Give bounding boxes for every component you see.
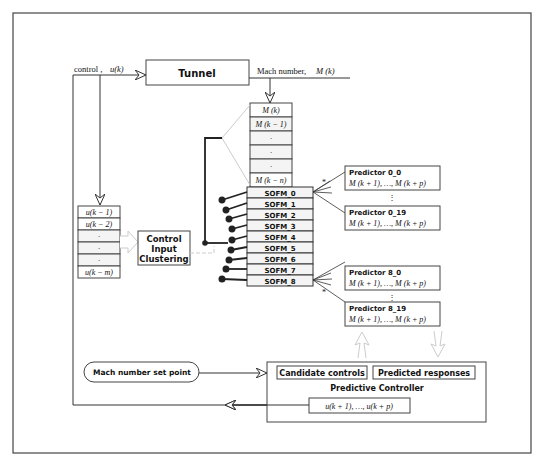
predictor-8-19: Predictor 8_19 M (k + 1), …, M (k + p) — [345, 302, 440, 326]
clustering-block: Control Input Clustering — [138, 231, 190, 265]
mach-output-var: M (k) — [315, 66, 335, 76]
predictor-formula: M (k + 1), …, M (k + p) — [348, 179, 426, 188]
predictor-0-19: Predictor 0_19 M (k + 1), …, M (k + p) — [345, 206, 440, 230]
star-mark: * — [322, 178, 326, 187]
clustering-line: Control — [146, 234, 181, 244]
clustering-line: Clustering — [139, 254, 188, 264]
mach-history-item: · — [270, 134, 273, 143]
predictor-title: Predictor 8_0 — [349, 269, 401, 277]
predictor-8-0: Predictor 8_0 M (k + 1), …, M (k + p) — [345, 266, 440, 290]
sofm-label: SOFM_4 — [264, 234, 295, 242]
mach-history-item: M (k − n) — [255, 176, 287, 185]
control-history-item: u(k − 1) — [86, 208, 113, 217]
sofm-label: SOFM_6 — [264, 256, 295, 264]
mach-history-stack: M (k) M (k − 1) · · · M (k − n) — [250, 103, 292, 187]
predictor-title: Predictor 8_19 — [349, 305, 406, 313]
predictor-title: Predictor 0_19 — [349, 209, 406, 217]
mach-history-item: M (k) — [261, 106, 280, 115]
predictor-formula: M (k + 1), …, M (k + p) — [348, 315, 426, 324]
sofm-switch-contacts — [219, 192, 247, 282]
tunnel-block: Tunnel — [146, 60, 249, 85]
control-diagram: Tunnel control , u(k) Mach number, M (k)… — [0, 0, 547, 469]
vertical-ellipsis: ⋮ — [388, 193, 396, 202]
mach-history-item: · — [270, 162, 273, 171]
setpoint-block: Mach number set point — [84, 362, 199, 382]
candidate-controls: Candidate controls — [279, 369, 365, 378]
sofm-label: SOFM_3 — [264, 223, 295, 231]
sofm-label: SOFM_1 — [264, 201, 295, 209]
sofm-label: SOFM_7 — [264, 267, 295, 275]
controller-output: u(k + 1), …, u(k + p) — [325, 402, 393, 411]
star-mark: * — [322, 288, 326, 297]
sofm-stack: SOFM_0 SOFM_1 SOFM_2 SOFM_3 SOFM_4 SOFM_… — [247, 187, 313, 286]
control-var: u(k) — [110, 64, 124, 74]
control-history-item: · — [98, 244, 101, 253]
sofm-label: SOFM_5 — [264, 245, 295, 253]
predictor-0-0: Predictor 0_0 M (k + 1), …, M (k + p) — [345, 166, 440, 190]
mach-history-item: · — [270, 148, 273, 157]
clustering-line: Input — [151, 244, 176, 254]
predictive-controller: Candidate controls Predicted responses P… — [267, 362, 486, 422]
control-history-item: u(k − m) — [85, 268, 113, 277]
mach-history-item: M (k − 1) — [255, 120, 287, 129]
predictor-formula: M (k + 1), …, M (k + p) — [348, 219, 426, 228]
tunnel-label: Tunnel — [178, 68, 215, 79]
control-history-item: · — [98, 232, 101, 241]
predictor-title: Predictor 0_0 — [349, 169, 401, 177]
sofm-label: SOFM_0 — [264, 190, 295, 198]
sofm-label: SOFM_8 — [264, 278, 295, 286]
predicted-responses: Predicted responses — [378, 369, 470, 378]
predictor-formula: M (k + 1), …, M (k + p) — [348, 279, 426, 288]
vertical-ellipsis: ⋮ — [388, 293, 396, 302]
sofm-label: SOFM_2 — [264, 212, 295, 220]
control-history-stack: u(k − 1) u(k − 2) · · · u(k − m) — [78, 206, 120, 278]
mach-output-label: Mach number, — [257, 66, 306, 76]
controller-title: Predictive Controller — [330, 384, 424, 393]
setpoint-label: Mach number set point — [93, 368, 191, 377]
control-label: control , — [74, 64, 102, 74]
control-history-item: · — [98, 256, 101, 265]
control-history-item: u(k − 2) — [86, 220, 113, 229]
